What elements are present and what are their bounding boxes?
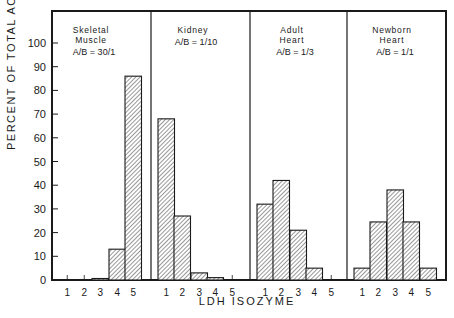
y-tick-label: 80 (34, 84, 46, 96)
bar (403, 222, 420, 280)
panel-kidney: KidneyA/B = 1/1012345 (151, 11, 235, 298)
x-axis-label: LDH ISOZYME (0, 295, 454, 307)
ratio-label: A/B = 1/3 (276, 47, 313, 57)
ratio-label: A/B = 1/1 (376, 47, 413, 57)
ratio-label: A/B = 1/10 (175, 37, 217, 47)
y-tick-label: 100 (28, 37, 46, 49)
bar (174, 216, 191, 280)
y-axis: 0102030405060708090100 (28, 37, 58, 286)
bar (290, 230, 307, 280)
bar (191, 273, 208, 280)
panel-title: Adult (280, 25, 303, 35)
panel-title: Muscle (75, 35, 107, 45)
y-tick-label: 10 (34, 250, 46, 262)
bar (370, 222, 387, 280)
panel-adult-heart: AdultHeartA/B = 1/312345 (250, 11, 334, 298)
bar (273, 180, 290, 280)
y-tick-label: 20 (34, 227, 46, 239)
panel-title: Heart (380, 35, 405, 45)
bar (257, 204, 274, 280)
y-tick-label: 70 (34, 108, 46, 120)
panel-skeletal-muscle: SkeletalMuscleA/B = 30/112345 (64, 25, 141, 298)
bar (387, 190, 404, 280)
y-tick-label: 0 (40, 274, 46, 286)
y-tick-label: 60 (34, 132, 46, 144)
panel-title: Skeletal (73, 25, 110, 35)
y-axis-label: PERCENT OF TOTAL ACTIVITY (5, 0, 17, 150)
panel-title: Heart (280, 35, 305, 45)
panels: SkeletalMuscleA/B = 30/112345KidneyA/B =… (64, 11, 436, 298)
bar-chart: 0102030405060708090100 SkeletalMuscleA/B… (0, 0, 454, 318)
bar (158, 119, 175, 280)
bar (420, 268, 437, 280)
panel-title: Newborn (372, 25, 412, 35)
y-tick-label: 30 (34, 203, 46, 215)
panel-newborn-heart: NewbornHeartA/B = 1/112345 (347, 11, 437, 298)
y-tick-label: 40 (34, 179, 46, 191)
bar (306, 268, 323, 280)
bar (109, 249, 126, 280)
y-tick-label: 50 (34, 156, 46, 168)
ratio-label: A/B = 30/1 (73, 47, 115, 57)
bar (125, 76, 142, 280)
bar (92, 279, 109, 281)
bar (354, 268, 371, 280)
bar (207, 278, 224, 280)
panel-title: Kidney (178, 25, 209, 35)
y-tick-label: 90 (34, 61, 46, 73)
